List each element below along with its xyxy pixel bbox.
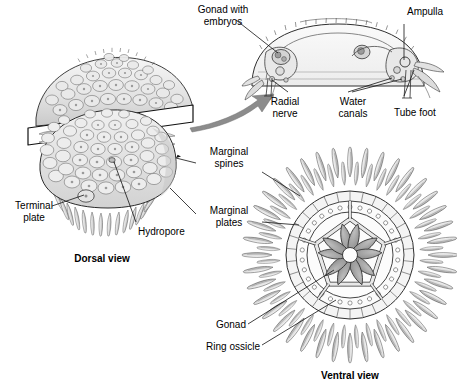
label-gonad-with-embryos: Gonad with embryos: [185, 4, 261, 27]
label-hydropore: Hydropore: [138, 226, 200, 238]
central-disc: [343, 248, 358, 263]
label-marginal-plates: Marginal plates: [198, 205, 260, 228]
gonad-with-embryos-feature: [272, 50, 290, 65]
label-ampulla: Ampulla: [407, 6, 455, 18]
cross-section-drawing: [236, 18, 444, 100]
caption-ventral-view: Ventral view: [300, 370, 400, 382]
ampulla-feature: [400, 57, 410, 67]
label-radial-nerve: Radial nerve: [262, 96, 308, 119]
caption-dorsal-view: Dorsal view: [52, 253, 152, 265]
cross-section-left-cluster: [242, 47, 297, 100]
label-tube-foot: Tube foot: [394, 107, 454, 119]
anatomy-figure: Gonad with embryos Ampulla Radial nerve …: [0, 0, 457, 388]
label-marginal-spines: Marginal spines: [198, 146, 260, 169]
label-gonad: Gonad: [190, 319, 246, 331]
label-water-canals: Water canals: [330, 96, 376, 119]
label-terminal-plate: Terminal plate: [6, 200, 62, 223]
label-ring-ossicle: Ring ossicle: [168, 341, 260, 353]
hydropore-feature: [109, 158, 115, 163]
